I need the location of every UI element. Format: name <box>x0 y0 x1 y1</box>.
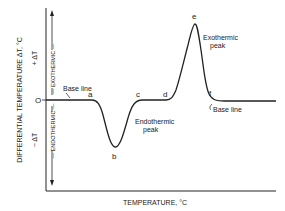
point-e-label: e <box>192 12 197 21</box>
endothermic-peak-label-2: peak <box>143 126 159 134</box>
x-axis-label: TEMPERATURE, °C <box>123 199 187 206</box>
exothermic-peak-label-1: Exothermic <box>203 34 239 41</box>
point-b-label: b <box>112 152 117 161</box>
point-d-label: d <box>163 90 167 99</box>
exothermic-peak-label-2: peak <box>210 42 226 50</box>
minus-delta-t-label: − ΔT <box>31 132 38 147</box>
zero-label: O <box>35 96 41 105</box>
exothermic-axis-label: — EXOTHERMIC — <box>50 43 56 94</box>
baseline-right-label: Base line <box>213 106 242 113</box>
point-f-label: f <box>209 89 212 98</box>
point-c-label: c <box>136 90 140 99</box>
y-axis-label: DIFFERENTIAL TEMPERATURE ΔT, °C <box>16 37 23 163</box>
arrow-up-icon <box>50 10 54 16</box>
arrow-down-icon <box>50 180 54 186</box>
plus-delta-t-label: + ΔT <box>31 50 38 65</box>
endothermic-axis-label: — ENDOTHERMIC — <box>50 103 56 159</box>
dta-diagram: DIFFERENTIAL TEMPERATURE ΔT, °C + ΔT − Δ… <box>0 0 285 211</box>
point-a-label: a <box>88 90 93 99</box>
baseline-right-pointer <box>210 104 212 110</box>
endothermic-peak-label-1: Endothermic <box>135 118 175 125</box>
baseline-left-pointer <box>66 93 70 98</box>
